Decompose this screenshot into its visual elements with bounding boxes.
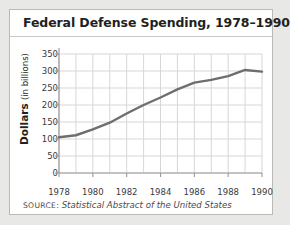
chart-canvas <box>10 37 274 187</box>
chart-figure: Federal Defense Spending, 1978–1990 Doll… <box>9 9 273 215</box>
source-prefix: SOURCE: <box>23 201 59 210</box>
x-axis-row: 1978198019821984198619881990 <box>10 187 274 201</box>
x-tick-label: 1990 <box>251 187 273 197</box>
x-tick-label: 1980 <box>82 187 104 197</box>
page-title: Federal Defense Spending, 1978–1990 <box>23 15 284 30</box>
plot-area: Dollars (in billions) 050100150200250300… <box>10 37 274 187</box>
x-tick-label: 1988 <box>217 187 239 197</box>
title-bar: Federal Defense Spending, 1978–1990 <box>10 10 272 36</box>
x-tick-label: 1984 <box>150 187 172 197</box>
x-axis-ticks: 1978198019821984198619881990 <box>10 187 274 201</box>
x-tick-label: 1986 <box>184 187 206 197</box>
vertical-gridlines <box>59 54 262 173</box>
x-tick-label: 1978 <box>48 187 70 197</box>
x-tick-label: 1982 <box>116 187 138 197</box>
axis-tickmarks <box>55 54 262 177</box>
source-note: SOURCE: Statistical Abstract of the Unit… <box>23 200 232 210</box>
source-title: Statistical Abstract of the United State… <box>62 200 232 210</box>
